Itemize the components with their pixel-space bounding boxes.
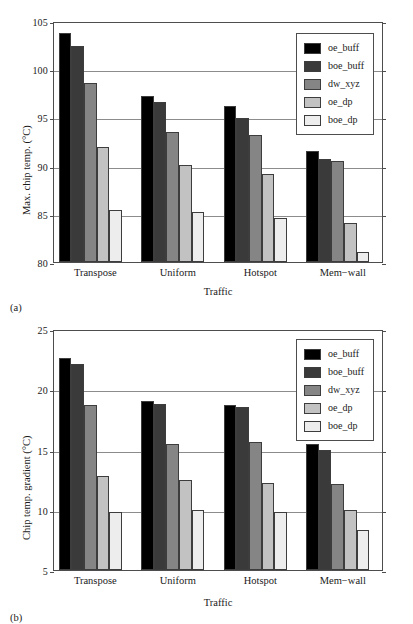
y-axis-tick-label: 85 [38, 211, 48, 221]
bar-dw_xyz [84, 83, 97, 262]
bar-dw_xyz [331, 484, 344, 570]
bar-oe_dp [179, 480, 192, 570]
bar-dw_xyz [84, 405, 97, 570]
y-axis-tick-label: 25 [38, 326, 48, 336]
legend-swatch-boe_buff [304, 61, 321, 72]
legend-label: oe_dp [328, 403, 352, 413]
legend-a: oe_buffboe_buffdw_xyzoe_dpboe_dp [296, 33, 374, 135]
legend-label: dw_xyz [328, 385, 360, 395]
bar-boe_buff [154, 102, 167, 262]
y-axis-tick-label: 5 [43, 567, 48, 577]
bar-oe_dp [179, 165, 192, 262]
bar-boe_dp [274, 512, 287, 570]
x-axis-tick-label: Hotspot [244, 268, 277, 279]
bar-oe_dp [97, 147, 110, 262]
bar-group-hotspot [224, 23, 287, 262]
plot-area-a: 80859095100105 TransposeUniformHotspotMe… [53, 22, 383, 263]
x-axis-tick-label: Mem−wall [320, 576, 366, 587]
bar-oe_buff [59, 358, 72, 570]
y-axis-tick-mark [382, 452, 386, 453]
bar-dw_xyz [331, 161, 344, 262]
bar-group-transpose [59, 331, 122, 570]
y-axis-tick-mark [382, 331, 386, 332]
bar-dw_xyz [249, 135, 262, 262]
x-axis-title-a: Traffic [53, 287, 383, 298]
legend-b: oe_buffboe_buffdw_xyzoe_dpboe_dp [296, 339, 374, 441]
y-axis-tick-label: 10 [38, 507, 48, 517]
legend-label: boe_dp [328, 115, 357, 125]
y-axis-title-a: Max. chip temp. (°C) [22, 125, 33, 215]
bar-oe_buff [141, 401, 154, 570]
x-axis-tick-label: Hotspot [244, 576, 277, 587]
bar-group-uniform [141, 331, 204, 570]
y-axis-tick-label: 80 [38, 259, 48, 269]
x-axis-title-b: Traffic [53, 598, 383, 609]
bar-group-uniform [141, 23, 204, 262]
bar-boe_dp [357, 252, 370, 262]
bar-oe_buff [306, 151, 319, 262]
bar-boe_buff [154, 404, 167, 570]
bar-group-transpose [59, 23, 122, 262]
y-axis-tick-label: 15 [38, 447, 48, 457]
legend-swatch-dw_xyz [304, 385, 321, 396]
legend-item-boe_buff: boe_buff [304, 57, 364, 75]
bar-oe_dp [262, 174, 275, 262]
bar-oe_buff [59, 33, 72, 262]
bar-boe_buff [236, 407, 249, 570]
y-axis-tick-mark [382, 512, 386, 513]
legend-item-dw_xyz: dw_xyz [304, 75, 364, 93]
bar-boe_dp [192, 212, 205, 262]
legend-swatch-dw_xyz [304, 79, 321, 90]
bar-oe_dp [262, 483, 275, 570]
y-axis-tick-mark [382, 572, 386, 573]
legend-swatch-oe_buff [304, 43, 321, 54]
legend-label: boe_dp [328, 421, 357, 431]
y-axis-tick-label: 95 [38, 114, 48, 124]
legend-item-dw_xyz: dw_xyz [304, 381, 364, 399]
bar-oe_buff [141, 96, 154, 262]
y-axis-tick-label: 105 [32, 18, 48, 28]
legend-swatch-boe_dp [304, 421, 321, 432]
bar-oe_dp [344, 223, 357, 263]
bar-boe_buff [319, 159, 332, 262]
bar-boe_dp [192, 510, 205, 570]
bar-oe_buff [306, 444, 319, 571]
y-axis-tick-mark [382, 119, 386, 120]
y-axis-tick-mark [382, 71, 386, 72]
legend-item-boe_dp: boe_dp [304, 417, 364, 435]
bar-dw_xyz [166, 132, 179, 262]
x-axis-tick-label: Transpose [74, 576, 117, 587]
y-axis-title-b: Chip temp. gradient (°C) [22, 435, 33, 540]
x-axis-tick-label: Uniform [160, 576, 196, 587]
legend-label: oe_buff [328, 43, 359, 53]
bar-boe_buff [71, 364, 84, 570]
bar-boe_dp [109, 210, 122, 262]
legend-item-boe_buff: boe_buff [304, 363, 364, 381]
bar-boe_buff [71, 46, 84, 262]
y-axis-tick-label: 90 [38, 163, 48, 173]
legend-item-oe_dp: oe_dp [304, 93, 364, 111]
bar-oe_buff [224, 106, 237, 262]
bar-group-hotspot [224, 331, 287, 570]
legend-label: oe_dp [328, 97, 352, 107]
legend-label: boe_buff [328, 367, 364, 377]
panel-label-b: (b) [10, 613, 22, 624]
y-axis-tick-mark [50, 264, 54, 265]
y-axis-tick-mark [382, 216, 386, 217]
bar-oe_dp [97, 476, 110, 570]
y-axis-tick-label: 100 [32, 66, 48, 76]
legend-label: oe_buff [328, 349, 359, 359]
y-axis-tick-label: 20 [38, 386, 48, 396]
bar-boe_buff [236, 118, 249, 262]
legend-item-boe_dp: boe_dp [304, 111, 364, 129]
y-axis-tick-mark [382, 391, 386, 392]
bar-boe_dp [357, 530, 370, 570]
bar-oe_buff [224, 405, 237, 570]
bar-boe_dp [109, 512, 122, 570]
legend-item-oe_buff: oe_buff [304, 345, 364, 363]
y-axis-tick-mark [50, 572, 54, 573]
chart-panel-a: 80859095100105 TransposeUniformHotspotMe… [0, 0, 413, 308]
legend-swatch-oe_dp [304, 97, 321, 108]
legend-swatch-oe_dp [304, 403, 321, 414]
x-axis-tick-label: Mem−wall [320, 268, 366, 279]
